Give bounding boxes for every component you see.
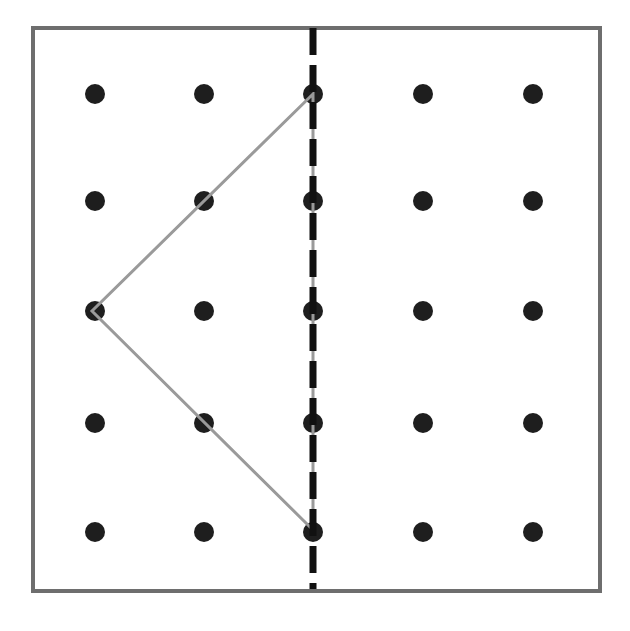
peg-dot-r0-c4 <box>523 84 543 104</box>
peg-dot-r2-c0 <box>85 301 105 321</box>
peg-dot-r1-c3 <box>413 191 433 211</box>
peg-dot-r3-c4 <box>523 413 543 433</box>
peg-dot-r4-c1 <box>194 522 214 542</box>
peg-dot-r0-c1 <box>194 84 214 104</box>
peg-dot-r2-c4 <box>523 301 543 321</box>
peg-dot-r3-c0 <box>85 413 105 433</box>
peg-dot-r1-c0 <box>85 191 105 211</box>
diagram-canvas <box>0 0 630 631</box>
peg-dot-r4-c0 <box>85 522 105 542</box>
peg-dot-r4-c3 <box>413 522 433 542</box>
peg-dot-r0-c3 <box>413 84 433 104</box>
peg-dot-r2-c3 <box>413 301 433 321</box>
peg-dot-r2-c1 <box>194 301 214 321</box>
peg-dot-r4-c4 <box>523 522 543 542</box>
peg-dot-r3-c3 <box>413 413 433 433</box>
peg-dot-r1-c4 <box>523 191 543 211</box>
peg-dot-r0-c0 <box>85 84 105 104</box>
